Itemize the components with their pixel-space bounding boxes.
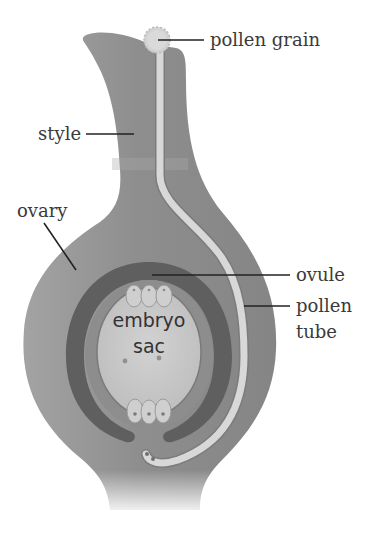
label-pollen-tube-2: tube bbox=[296, 321, 337, 342]
label-ovule: ovule bbox=[296, 264, 345, 285]
label-embryo-sac-1: embryo bbox=[113, 309, 186, 331]
antipodal-cells bbox=[126, 285, 172, 307]
egg-apparatus bbox=[127, 399, 171, 424]
receptacle-fade bbox=[90, 470, 220, 516]
label-pollen-tube-1: pollen bbox=[296, 295, 353, 316]
label-pollen-grain: pollen grain bbox=[210, 29, 320, 50]
sperm-nucleus bbox=[145, 452, 149, 456]
polar-nucleus-left bbox=[123, 359, 128, 364]
sperm-nucleus bbox=[151, 457, 155, 461]
label-style: style bbox=[38, 123, 81, 144]
label-ovary: ovary bbox=[17, 200, 68, 221]
style-highlight bbox=[112, 158, 188, 170]
pistil-diagram: pollen grain style ovary ovule pollen tu… bbox=[0, 0, 371, 546]
label-embryo-sac-2: sac bbox=[133, 335, 165, 357]
